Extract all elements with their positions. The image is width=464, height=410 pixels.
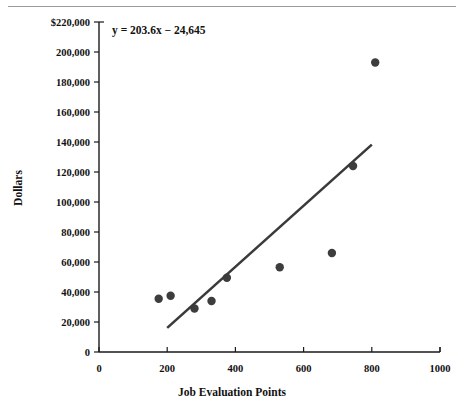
- data-point: [166, 292, 174, 300]
- x-tick-label: 1000: [430, 363, 451, 374]
- y-tick-label: $220,000: [51, 17, 90, 28]
- regression-equation-annotation: y = 203.6x − 24,645: [112, 24, 206, 37]
- axes-group: [94, 22, 440, 352]
- y-tick-label: 140,000: [56, 137, 90, 148]
- x-axis-tick-labels: 02004006008001000: [96, 363, 450, 374]
- y-tick-label: 40,000: [61, 287, 90, 298]
- x-tick-label: 600: [296, 363, 312, 374]
- x-tick-label: 0: [96, 363, 101, 374]
- data-point: [276, 263, 284, 271]
- x-axis-title: Job Evaluation Points: [178, 386, 287, 398]
- data-point: [371, 58, 379, 66]
- data-point: [328, 249, 336, 257]
- y-tick-label: 160,000: [56, 107, 90, 118]
- data-points-group: [154, 58, 379, 312]
- data-point: [207, 297, 215, 305]
- y-tick-label: 80,000: [61, 227, 90, 238]
- y-tick-label: 100,000: [56, 197, 90, 208]
- regression-trendline: [167, 145, 372, 328]
- y-tick-label: 60,000: [61, 257, 90, 268]
- y-axis-tick-labels: 020,00040,00060,00080,000100,000120,0001…: [51, 17, 90, 358]
- y-tick-label: 0: [85, 347, 90, 358]
- chart-canvas: 020,00040,00060,00080,000100,000120,0001…: [0, 0, 464, 410]
- y-tick-label: 20,000: [61, 317, 90, 328]
- x-tick-label: 800: [364, 363, 380, 374]
- x-tick-label: 400: [228, 363, 244, 374]
- y-axis-title: Dollars: [12, 170, 24, 206]
- y-tick-label: 200,000: [56, 47, 90, 58]
- data-point: [154, 295, 162, 303]
- trendline-group: [167, 145, 372, 328]
- y-tick-label: 120,000: [56, 167, 90, 178]
- x-tick-label: 200: [159, 363, 175, 374]
- y-tick-label: 180,000: [56, 77, 90, 88]
- scatter-plot-figure: 020,00040,00060,00080,000100,000120,0001…: [0, 0, 464, 410]
